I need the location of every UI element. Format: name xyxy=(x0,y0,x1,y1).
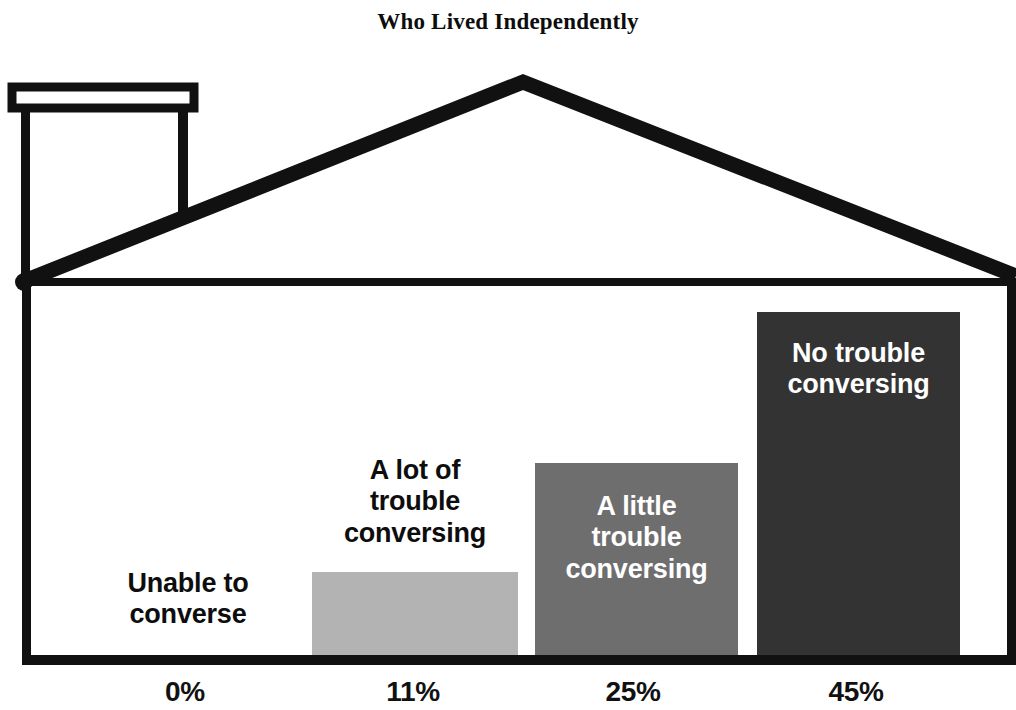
bar-label-line: trouble xyxy=(305,486,525,517)
bar-label-unable-to-converse: Unable to converse xyxy=(88,568,288,631)
bar-no-trouble-conversing[interactable]: No trouble conversing xyxy=(757,312,960,655)
bar-label-a-little-trouble-conversing: A little trouble conversing xyxy=(535,491,738,585)
page-title: Who Lived Independently xyxy=(0,9,1016,34)
chimney-left-post-icon xyxy=(21,108,30,286)
bar-label-line: conversing xyxy=(535,554,738,585)
right-wall-icon xyxy=(1007,278,1016,663)
ceiling-line-icon xyxy=(22,278,1010,286)
bar-label-no-trouble-conversing: No trouble conversing xyxy=(757,338,960,401)
bar-label-line: A little xyxy=(535,491,738,522)
bar-label-line: conversing xyxy=(305,518,525,549)
chimney-cap-icon xyxy=(12,87,194,108)
bar-label-a-lot-of-trouble-conversing: A lot of trouble conversing xyxy=(305,455,525,549)
bar-label-line: converse xyxy=(88,599,288,630)
infographic-canvas: Who Lived Independently Unable to conver… xyxy=(0,0,1016,710)
roof-eave-joint-icon xyxy=(15,273,33,291)
bar-label-line: Unable to xyxy=(88,568,288,599)
bar-a-lot-of-trouble-conversing[interactable] xyxy=(312,572,518,655)
bar-label-line: A lot of xyxy=(305,455,525,486)
axis-tick-label-1: 11% xyxy=(343,676,483,708)
axis-tick-label-2: 25% xyxy=(563,676,703,708)
baseline-axis-icon xyxy=(22,655,1016,665)
bar-label-line: conversing xyxy=(757,369,960,400)
bar-a-little-trouble-conversing[interactable]: A little trouble conversing xyxy=(535,463,738,655)
chimney-right-post-icon xyxy=(178,108,188,223)
axis-tick-label-0: 0% xyxy=(115,676,255,708)
left-wall-icon xyxy=(22,278,31,663)
roof-icon xyxy=(22,82,1016,282)
axis-tick-label-3: 45% xyxy=(786,676,926,708)
bar-label-line: No trouble xyxy=(757,338,960,369)
bar-label-line: trouble xyxy=(535,522,738,553)
